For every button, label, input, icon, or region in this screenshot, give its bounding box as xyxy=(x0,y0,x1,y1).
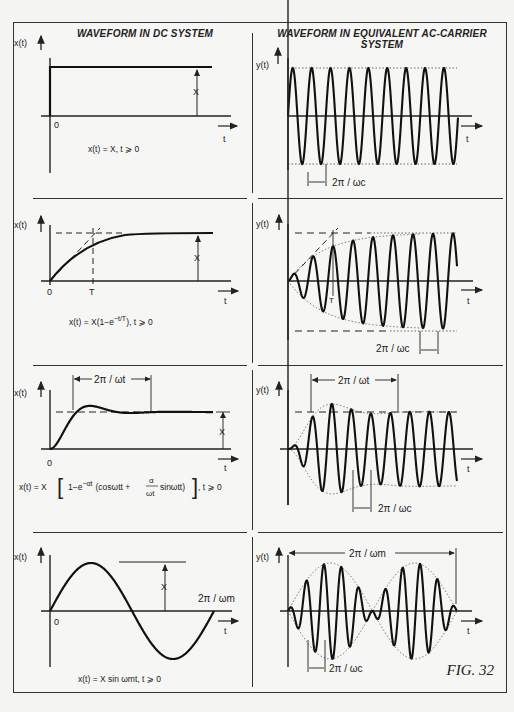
row4-ac-plot: y(t) t 2π / ωm 2π / ωc xyxy=(0,0,514,712)
svg-text:y(t): y(t) xyxy=(256,552,269,562)
figure-label: FIG. 32 xyxy=(447,662,495,679)
svg-text:t: t xyxy=(467,626,470,636)
svg-text:2π / ωm: 2π / ωm xyxy=(349,548,386,559)
svg-text:2π / ωc: 2π / ωc xyxy=(329,663,363,674)
